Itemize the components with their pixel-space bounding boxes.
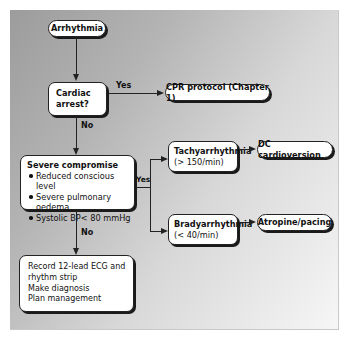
arrow-right-icon (249, 146, 256, 152)
node-cardiac-arrest-line1: Cardiac (56, 88, 106, 99)
node-severe-compromise: Severe compromise Reduced conscious leve… (20, 155, 135, 210)
severe-criterion: Systolic BP< 80 mmHg (27, 213, 134, 224)
severe-criteria-list: Reduced conscious level Severe pulmonary… (27, 171, 134, 224)
node-atropine-pacing-label: Atropine/pacing (258, 217, 332, 228)
edge-arrest-to-cpr (108, 93, 158, 94)
edge-severe-to-branch (136, 187, 151, 188)
edge-branch-vertical (150, 159, 151, 232)
arrow-right-icon (249, 219, 256, 225)
node-arrhythmia-label: Arrhythmia (51, 23, 103, 34)
node-cardiac-arrest-line2: arrest? (56, 99, 106, 110)
record-step: Record 12-lead ECG and (28, 262, 133, 273)
record-step: rhythm strip (28, 273, 133, 284)
edge-label-arrest-no: No (81, 121, 93, 130)
node-cpr-protocol-label: CPR protocol (Chapter 1) (166, 82, 269, 103)
node-tachyarrhythmia-rate: (> 150/min) (174, 157, 237, 168)
node-arrhythmia: Arrhythmia (48, 20, 106, 37)
edge-arrhythmia-to-arrest (76, 38, 77, 75)
edge-arrest-to-severe (76, 117, 77, 148)
node-atropine-pacing: Atropine/pacing (257, 214, 332, 231)
node-cpr-protocol: CPR protocol (Chapter 1) (165, 84, 270, 101)
node-record-ecg: Record 12-lead ECG and rhythm strip Make… (19, 255, 134, 312)
severe-criterion: Severe pulmonary oedema (27, 192, 134, 213)
node-dc-cardioversion: DC cardioversion (257, 141, 333, 158)
record-step: Plan management (28, 294, 133, 305)
node-bradyarrhythmia-title: Bradyarrhythmia (174, 219, 237, 230)
record-step: Make diagnosis (28, 284, 133, 295)
edge-label-severe-no: No (81, 228, 93, 237)
node-tachyarrhythmia: Tachyarrhythmia (> 150/min) (168, 141, 238, 172)
node-bradyarrhythmia: Bradyarrhythmia (< 40/min) (168, 214, 238, 245)
node-tachyarrhythmia-title: Tachyarrhythmia (174, 146, 237, 157)
edge-label-severe-yes: Yes (136, 175, 150, 184)
arrow-down-icon (73, 74, 79, 81)
node-dc-cardioversion-label: DC cardioversion (258, 139, 332, 160)
arrow-right-icon (161, 156, 168, 162)
arrow-down-icon (73, 248, 79, 255)
arrow-right-icon (157, 90, 164, 96)
arrow-down-icon (73, 148, 79, 155)
node-cardiac-arrest: Cardiac arrest? (48, 82, 107, 116)
edge-severe-to-record (76, 211, 77, 248)
node-severe-compromise-title: Severe compromise (27, 160, 134, 171)
arrow-right-icon (161, 228, 168, 234)
edge-label-arrest-yes: Yes (116, 81, 131, 90)
node-bradyarrhythmia-rate: (< 40/min) (174, 230, 237, 241)
severe-criterion: Reduced conscious level (27, 171, 134, 192)
